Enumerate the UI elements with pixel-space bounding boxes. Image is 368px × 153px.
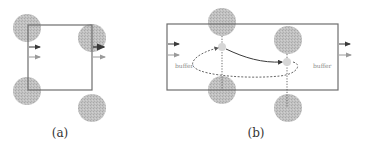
buffer-label-right: buffer — [313, 62, 332, 69]
particle-circle — [13, 14, 41, 42]
panel-b: buffer buffer (b) — [167, 8, 351, 140]
particle-circle — [274, 26, 302, 54]
caption-a: (a) — [52, 126, 69, 140]
particle-circle — [208, 8, 236, 36]
simulation-box — [167, 24, 338, 90]
particle-circle — [274, 94, 302, 122]
panel-a: (a) — [13, 14, 106, 140]
small-particle-icon — [283, 58, 291, 66]
caption-b: (b) — [247, 126, 264, 140]
small-particle-icon — [218, 43, 226, 51]
figure-canvas: (a) buffer buffer (b) — [0, 0, 368, 153]
transfer-arrow-icon — [226, 49, 282, 62]
buffer-label-left: buffer — [175, 62, 194, 69]
particle-circle — [78, 94, 106, 122]
particle-circle — [13, 77, 41, 105]
